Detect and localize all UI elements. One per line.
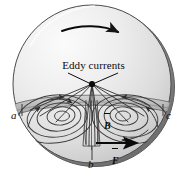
point-label-b: b xyxy=(88,159,94,170)
eddy-currents-label: Eddy currents xyxy=(62,60,125,71)
eddy-currents-figure: Eddy currents a c b B F xyxy=(0,0,187,175)
point-label-a: a xyxy=(11,110,17,121)
figure-canvas xyxy=(0,0,187,175)
field-vector-label: B xyxy=(104,116,111,132)
force-vector-glyph: F xyxy=(112,151,119,167)
point-label-c: c xyxy=(166,110,171,121)
junction-dot-icon xyxy=(89,81,95,87)
field-vector-glyph: B xyxy=(104,116,111,132)
force-vector-label: F xyxy=(112,151,119,167)
vector-overbar-F xyxy=(112,148,118,149)
vector-overbar-B xyxy=(104,113,110,114)
